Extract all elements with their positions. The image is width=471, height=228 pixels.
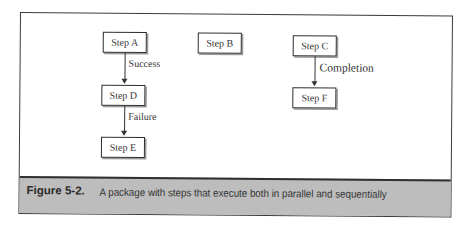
arrowhead-down-icon (121, 79, 127, 84)
step-b-box: Step B (198, 32, 242, 53)
step-f-label: Step F (301, 92, 327, 103)
edge-label-completion: Completion (320, 61, 374, 73)
step-c-label: Step C (301, 40, 328, 51)
diagram-canvas: Step A Success Step D Failure Step E Ste… (20, 13, 452, 180)
step-e-label: Step E (110, 142, 136, 153)
figure-frame: Step A Success Step D Failure Step E Ste… (18, 12, 453, 217)
connector-c-to-f (314, 56, 315, 82)
connector-a-to-d (124, 53, 125, 80)
caption-text: A package with steps that execute both i… (100, 186, 387, 200)
figure-caption: Figure 5-2. A package with steps that ex… (19, 176, 450, 216)
arrowhead-down-icon (311, 81, 317, 86)
step-c-box: Step C (293, 35, 337, 56)
step-f-box: Step F (292, 87, 336, 108)
step-d-label: Step D (110, 90, 138, 101)
arrowhead-down-icon (121, 131, 127, 136)
step-d-box: Step D (101, 85, 145, 106)
step-a-box: Step A (103, 32, 147, 53)
step-b-label: Step B (206, 37, 233, 48)
step-a-label: Step A (111, 37, 138, 48)
edge-label-success: Success (129, 58, 161, 69)
figure-number: Figure 5-2. (27, 184, 85, 196)
connector-d-to-e (124, 106, 125, 132)
step-e-box: Step E (101, 137, 145, 158)
edge-label-failure: Failure (128, 111, 156, 122)
